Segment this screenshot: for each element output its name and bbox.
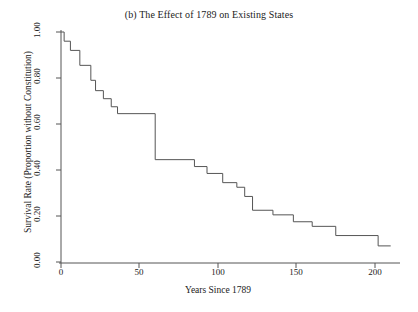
survival-curve-line <box>61 32 391 246</box>
plot-area <box>0 0 418 312</box>
y-axis-ticks <box>56 32 61 262</box>
x-axis-ticks <box>61 263 375 268</box>
chart-figure: (b) The Effect of 1789 on Existing State… <box>0 0 418 312</box>
